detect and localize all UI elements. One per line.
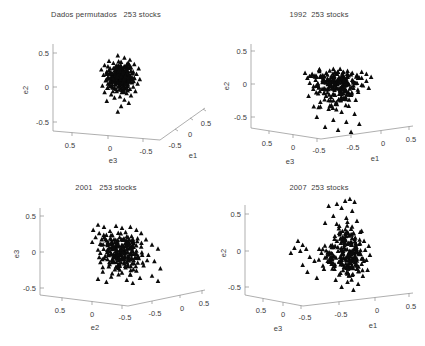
- scatter-marker: [305, 270, 310, 274]
- scatter-marker: [102, 90, 107, 94]
- scatter-marker: [300, 243, 305, 247]
- ltick-1: 0: [90, 310, 94, 319]
- scatter-marker: [125, 278, 130, 282]
- scatter-marker: [312, 259, 317, 263]
- scatter-marker: [90, 240, 95, 244]
- ltick-2: -0.5: [119, 313, 132, 322]
- scatter-marker: [368, 253, 373, 257]
- scatter-marker: [146, 253, 151, 257]
- scatter-marker: [99, 67, 104, 71]
- scatter-marker: [134, 228, 139, 232]
- scatter-marker: [144, 237, 149, 241]
- scatter-marker: [101, 269, 106, 273]
- scatter-marker: [135, 81, 140, 85]
- scatter-marker: [331, 214, 336, 218]
- ltick-0: 0.5: [55, 306, 65, 315]
- scatter-marker: [364, 72, 369, 76]
- scatter-plot-1992: 0.5 0 -0.5 0.5 0 -0.5 -0.5 0 0.5 e2 e3 e…: [213, 0, 425, 173]
- scatter-marker: [349, 277, 354, 281]
- scatter-marker: [303, 71, 308, 75]
- scatter-marker: [93, 235, 98, 239]
- scatter-marker: [91, 228, 96, 232]
- scatter-marker: [344, 216, 349, 220]
- scatter-marker: [364, 79, 369, 83]
- scatter-marker: [100, 265, 105, 269]
- vtick-1: 0: [237, 247, 241, 256]
- scatter-marker: [352, 200, 357, 204]
- scatter-marker: [361, 274, 366, 278]
- scatter-marker: [298, 249, 303, 253]
- scatter-marker: [158, 266, 163, 270]
- scatter-marker: [344, 120, 349, 124]
- scatter-marker: [127, 101, 132, 105]
- scatter-marker: [323, 125, 328, 129]
- rtick-1: 0: [180, 304, 184, 313]
- scatter-marker: [339, 206, 344, 210]
- scatter-marker: [336, 128, 341, 132]
- scatter-marker: [138, 275, 143, 279]
- scatter-marker: [102, 63, 107, 67]
- scatter-marker: [128, 272, 133, 276]
- scatter-marker: [133, 89, 138, 93]
- scatter-marker: [128, 225, 133, 229]
- scatter-marker: [351, 272, 356, 276]
- rtick-1: 0: [381, 139, 385, 148]
- scatter-marker: [345, 220, 350, 224]
- axes-1992: [251, 44, 413, 142]
- vertical-axis-label: e2: [21, 86, 30, 94]
- data-points-1992: [303, 67, 374, 134]
- scatter-marker: [132, 62, 137, 66]
- scatter-marker: [338, 67, 343, 71]
- left-axis-label: e3: [109, 156, 117, 165]
- scatter-marker: [138, 77, 143, 81]
- scatter-marker: [334, 221, 339, 225]
- scatter-marker: [97, 255, 102, 259]
- scatter-marker: [345, 280, 350, 284]
- data-points-2007: [289, 197, 373, 292]
- scatter-marker: [360, 268, 365, 272]
- vtick-2: -0.5: [234, 113, 247, 122]
- scatter-marker: [123, 230, 128, 234]
- right-axis-label: e1: [371, 154, 379, 163]
- vertical-axis-label: e2: [219, 249, 228, 257]
- scatter-marker: [317, 257, 322, 261]
- scatter-marker: [349, 130, 354, 134]
- vtick-0: 0.5: [26, 212, 36, 221]
- scatter-marker: [122, 55, 127, 59]
- scatter-marker: [306, 94, 311, 98]
- scatter-marker: [339, 110, 344, 114]
- scatter-marker: [318, 100, 323, 104]
- data-points-permuted: [99, 53, 142, 114]
- scatter-marker: [366, 86, 371, 90]
- scatter-marker: [96, 277, 101, 281]
- scatter-marker: [116, 53, 121, 57]
- ltick-1: 0: [291, 143, 295, 152]
- scatter-marker: [139, 240, 144, 244]
- figure-canvas: Dados permutados 253 stocks: [0, 0, 425, 346]
- scatter-marker: [131, 84, 136, 88]
- left-axis-label: e2: [91, 323, 99, 332]
- panel-2007: 2007 253 stocks 0.5 0 -0.5 0.5: [213, 173, 425, 346]
- rtick-0: -0.5: [335, 310, 348, 319]
- right-axis-label: e1: [189, 151, 197, 160]
- scatter-marker: [369, 75, 374, 79]
- scatter-marker: [108, 229, 113, 233]
- vtick-1: 0: [243, 80, 247, 89]
- scatter-marker: [358, 248, 363, 252]
- rtick-0: -0.5: [149, 309, 162, 318]
- scatter-marker: [335, 202, 340, 206]
- ltick-0: 0.5: [262, 139, 272, 148]
- panel-2001: 2001 253 stocks 0.5 0 -0.5 0.5: [0, 173, 212, 346]
- scatter-marker: [355, 219, 360, 223]
- scatter-marker: [321, 263, 326, 267]
- scatter-marker: [150, 273, 155, 277]
- scatter-marker: [97, 231, 102, 235]
- data-points-2001: [90, 222, 163, 285]
- scatter-marker: [96, 247, 101, 251]
- scatter-marker: [156, 279, 161, 283]
- scatter-marker: [311, 104, 316, 108]
- scatter-marker: [350, 224, 355, 228]
- vtick-0: 0.5: [231, 210, 241, 219]
- scatter-marker: [114, 223, 119, 227]
- scatter-marker: [296, 239, 301, 243]
